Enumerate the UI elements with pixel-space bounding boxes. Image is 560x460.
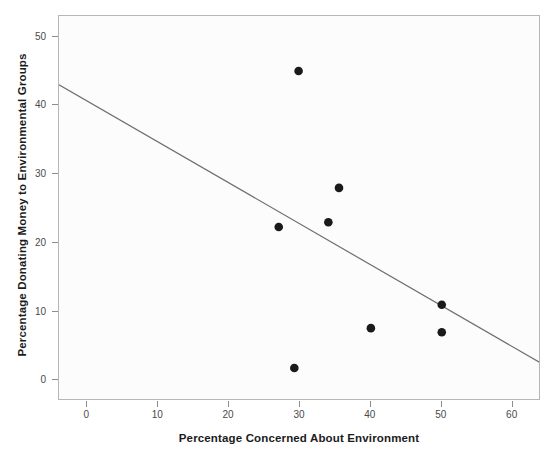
x-tick-label: 60 (497, 409, 527, 420)
x-tick-label: 20 (213, 409, 243, 420)
x-tick-label: 0 (71, 409, 101, 420)
x-tick-mark (86, 401, 87, 407)
y-axis-title: Percentage Donating Money to Environment… (16, 10, 28, 400)
axis-layer: 010203040500102030405060 (0, 0, 560, 460)
y-tick-mark (52, 379, 58, 380)
y-tick-mark (52, 311, 58, 312)
x-tick-label: 40 (355, 409, 385, 420)
y-tick-mark (52, 104, 58, 105)
x-tick-label: 50 (426, 409, 456, 420)
x-tick-mark (370, 401, 371, 407)
y-tick-mark (52, 36, 58, 37)
x-axis-title: Percentage Concerned About Environment (58, 432, 540, 444)
x-tick-label: 10 (142, 409, 172, 420)
x-tick-label: 30 (284, 409, 314, 420)
x-tick-mark (157, 401, 158, 407)
scatter-plot-figure: 010203040500102030405060 Percentage Dona… (0, 0, 560, 460)
x-tick-mark (441, 401, 442, 407)
y-tick-mark (52, 173, 58, 174)
y-tick-mark (52, 242, 58, 243)
x-tick-mark (512, 401, 513, 407)
x-tick-mark (228, 401, 229, 407)
x-tick-mark (299, 401, 300, 407)
